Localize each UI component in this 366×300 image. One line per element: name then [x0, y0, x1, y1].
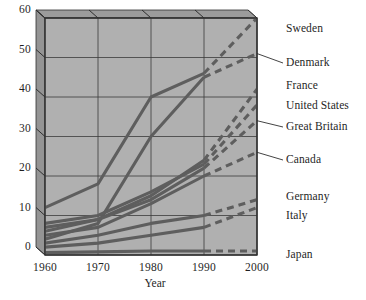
y-tick-label: 0 [2, 240, 31, 252]
y-tick-label: 50 [2, 43, 31, 55]
legend-item-japan: Japan [286, 248, 313, 260]
y-tick-label: 60 [2, 3, 31, 15]
legend-item-denmark: Denmark [286, 56, 330, 68]
legend-item-germany: Germany [286, 190, 330, 202]
legend-connector [257, 54, 283, 63]
legend-item-sweden: Sweden [286, 22, 323, 34]
legend-item-united-states: United States [286, 99, 349, 111]
legend-item-italy: Italy [286, 209, 308, 221]
series-line-solid [45, 251, 204, 253]
x-tick-label: 1980 [125, 261, 177, 273]
legend-connector [257, 152, 283, 160]
legend-connector [257, 121, 283, 127]
y-tick-label: 20 [2, 161, 31, 173]
legend-item-canada: Canada [286, 153, 321, 165]
y-tick-label: 40 [2, 82, 31, 94]
legend-item-great-britain: Great Britain [286, 120, 348, 132]
legend-connector-lines [257, 29, 283, 255]
x-tick-label: 2000 [231, 261, 283, 273]
x-tick-label: 1970 [72, 261, 124, 273]
x-tick-label: 1990 [178, 261, 230, 273]
x-tick-label: 1960 [19, 261, 71, 273]
y-tick-label: 30 [2, 122, 31, 134]
chart-figure: 0102030405060 19601970198019902000 Swede… [0, 0, 366, 300]
y-tick-label: 10 [2, 201, 31, 213]
x-axis-title: Year [105, 277, 205, 289]
legend-item-france: France [286, 79, 318, 91]
